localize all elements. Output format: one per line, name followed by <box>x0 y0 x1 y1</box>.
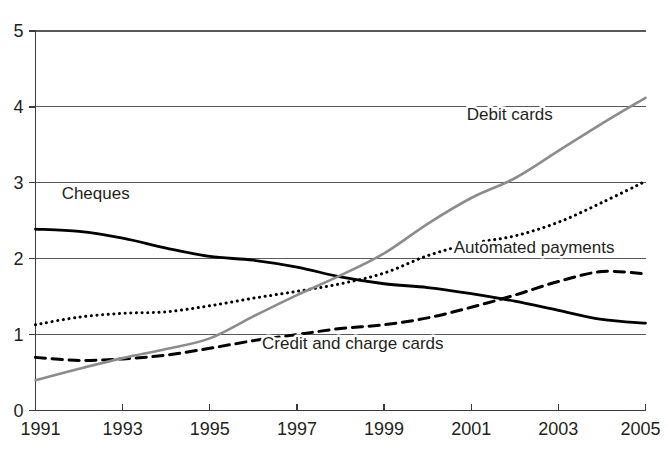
axis-ticks <box>29 31 646 411</box>
x-tick-label-2001: 2001 <box>451 419 491 439</box>
line-chart-figure: 012345 ChequesChequesAutomated paymentsA… <box>0 0 667 464</box>
y-tick-label-4: 4 <box>13 97 23 117</box>
gridlines <box>36 31 646 335</box>
chart-axes <box>36 31 646 411</box>
y-tick-label-3: 3 <box>13 173 23 193</box>
y-tick-label-0: 0 <box>13 401 23 421</box>
y-tick-label-5: 5 <box>13 21 23 41</box>
y-tick-label-2: 2 <box>13 249 23 269</box>
x-tick-label-2005: 2005 <box>620 419 660 439</box>
y-axis-tick-labels: 012345 <box>13 21 23 421</box>
chart-canvas: 012345 ChequesChequesAutomated paymentsA… <box>0 0 667 464</box>
x-tick-label-1995: 1995 <box>190 419 230 439</box>
x-tick-label-1997: 1997 <box>277 419 317 439</box>
x-tick-label-1999: 1999 <box>364 419 404 439</box>
series-labels: ChequesChequesAutomated paymentsAutomate… <box>62 105 615 353</box>
series-label-debit-cards: Debit cards <box>467 105 553 124</box>
series-label-credit-and-charge-cards: Credit and charge cards <box>262 334 443 353</box>
series-label-cheques: Cheques <box>62 184 130 203</box>
series-label-automated-payments: Automated payments <box>454 238 615 257</box>
x-tick-label-1991: 1991 <box>20 419 60 439</box>
x-tick-label-2003: 2003 <box>538 419 578 439</box>
x-axis-tick-labels: 19911993199519971999200120032005 <box>20 419 660 439</box>
x-tick-label-1993: 1993 <box>103 419 143 439</box>
y-tick-label-1: 1 <box>13 325 23 345</box>
